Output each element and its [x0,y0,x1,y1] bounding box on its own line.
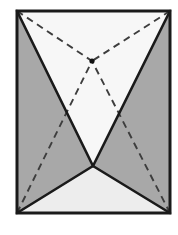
shaded-regions-group [17,11,170,213]
hidden-apex-dot [89,58,94,63]
geometric-figure-svg [0,0,178,235]
figure-canvas [0,0,178,235]
